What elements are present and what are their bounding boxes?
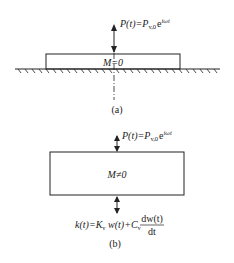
arrow-down-head-a	[111, 46, 117, 53]
force-label-a: P(t)=Pv,0eiωt	[119, 17, 170, 30]
force-label-b: P(t)=Pv,0eiωt	[121, 129, 172, 142]
diagram-canvas: P(t)=Pv,0eiωt M=0	[0, 0, 234, 263]
arrow-up-head-b	[114, 135, 120, 141]
reaction-label: k(t)=Kv w(t)+Cv	[75, 219, 142, 231]
reaction-arrow-down-head	[114, 208, 120, 214]
reaction-arrow-up-head	[114, 196, 120, 202]
arrow-down-head-b	[114, 146, 120, 152]
caption-b: (b)	[109, 238, 121, 250]
arrow-up-head-a	[111, 24, 117, 31]
ground-hatching	[18, 69, 217, 73]
figure-a: P(t)=Pv,0eiωt M=0	[15, 17, 220, 116]
fraction-numerator: dw(t)	[141, 213, 163, 225]
fraction-denominator: dt	[148, 226, 156, 237]
figure-b: P(t)=Pv,0eiωt M≠0 k(t)=Kv w(t)+Cv dw(t) …	[50, 129, 184, 250]
mass-label-b: M≠0	[107, 169, 127, 180]
caption-a: (a)	[111, 104, 122, 116]
mass-label-a: M=0	[102, 57, 123, 68]
